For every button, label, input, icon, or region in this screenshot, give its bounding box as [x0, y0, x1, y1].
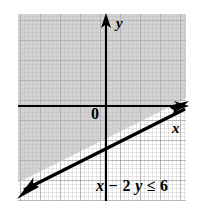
inequality-term-x: x [96, 177, 105, 194]
inequality-term-y: y [135, 177, 143, 194]
y-axis-label: y [116, 16, 123, 31]
inequality-relation-symbol: ≤ [147, 177, 156, 194]
inequality-right-hand-side: 6 [160, 177, 169, 194]
x-axis-label: x [172, 121, 180, 136]
inequality-annotation: x− 2y≤6 [96, 178, 169, 194]
inequality-graph-figure: y x 0 x− 2y≤6 [0, 0, 201, 210]
origin-label: 0 [91, 106, 99, 122]
inequality-operator-minus-two: − 2 [109, 177, 132, 194]
